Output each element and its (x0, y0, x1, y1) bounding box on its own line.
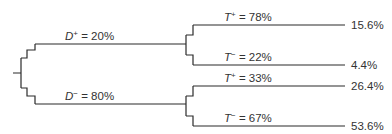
label-d-neg-t-pos: T+ = 33% (224, 72, 272, 84)
connector-d-neg (186, 86, 193, 126)
joint-d-pos-t-pos: 15.6% (351, 19, 384, 31)
joint-d-neg-t-neg: 53.6% (351, 120, 384, 132)
prob-d-neg: 80% (91, 90, 114, 102)
prob-d-pos: 20% (91, 30, 114, 42)
label-d-pos-t-pos: T+ = 78% (224, 11, 272, 23)
label-d-pos: D+ = 20% (65, 30, 114, 42)
label-d-neg: D− = 80% (65, 90, 114, 102)
tree-lines (0, 0, 392, 134)
connector-d-pos (186, 25, 193, 65)
joint-d-pos-t-neg: 4.4% (351, 59, 377, 71)
label-d-pos-t-neg: T− = 22% (224, 51, 272, 63)
root-connector (13, 44, 35, 104)
joint-d-neg-t-pos: 26.4% (351, 80, 384, 92)
label-d-neg-t-neg: T− = 67% (224, 112, 272, 124)
